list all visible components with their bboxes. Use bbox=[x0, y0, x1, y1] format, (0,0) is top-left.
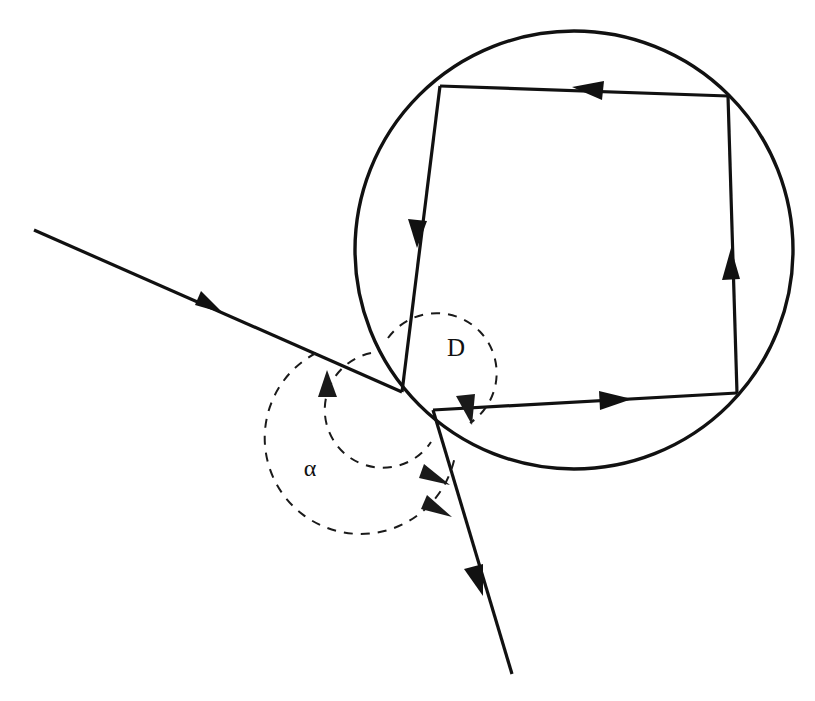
alpha-inner-arc-arrowhead bbox=[419, 464, 450, 485]
internal-chord-3-arrowhead bbox=[722, 248, 740, 280]
alpha-inner-arc bbox=[325, 353, 431, 468]
deviation-angle-label: D bbox=[447, 334, 465, 361]
internal-chord-entry-to-top-left bbox=[402, 86, 440, 392]
alpha-angle-label: α bbox=[304, 455, 317, 481]
internal-chord-1-arrowhead bbox=[408, 219, 427, 248]
ray-diagram-canvas: D α bbox=[0, 0, 815, 701]
internal-chord-right-edge bbox=[728, 96, 737, 393]
exit-ray bbox=[433, 410, 512, 674]
exit-ray-arrowhead bbox=[464, 564, 483, 596]
internal-chord-bottom-edge bbox=[433, 393, 737, 410]
incident-ray-arrowhead bbox=[195, 291, 223, 313]
alpha-arc-start-arrowhead bbox=[318, 370, 337, 397]
internal-chord-4-arrowhead bbox=[599, 391, 632, 410]
ray-path-diagram: D α bbox=[0, 0, 815, 701]
